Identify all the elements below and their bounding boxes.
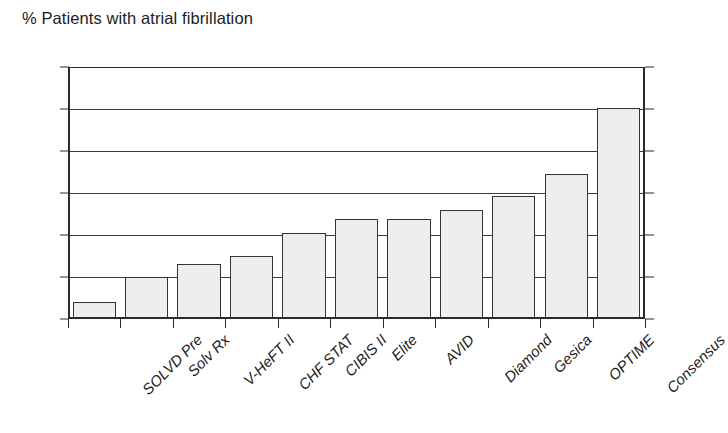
x-tick-mark — [68, 319, 69, 328]
x-tick-label: Solv Rx — [184, 331, 233, 380]
bar-optime — [545, 174, 588, 319]
y-tick-mark — [645, 67, 654, 68]
x-tick-label: Diamond — [501, 331, 555, 385]
x-tick-label: OPTIME — [605, 331, 658, 384]
x-tick-mark — [225, 319, 226, 328]
x-tick-label: CIBIS II — [341, 331, 390, 380]
bar-cibis-ii — [282, 233, 325, 319]
x-tick-label: Gesica — [550, 331, 595, 376]
x-tick-mark — [173, 319, 174, 328]
y-tick-mark — [645, 151, 654, 152]
x-tick-mark — [593, 319, 594, 328]
bar-solv-rx — [125, 277, 168, 319]
bar-v-heft-ii — [177, 264, 220, 319]
bar-elite — [335, 219, 378, 319]
x-tick-mark — [540, 319, 541, 328]
x-tick-label: V-HeFT II — [240, 331, 298, 389]
x-tick-mark — [383, 319, 384, 328]
y-tick-mark — [645, 109, 654, 110]
y-tick-mark — [645, 235, 654, 236]
y-tick-mark — [645, 319, 654, 320]
bar-series — [68, 67, 645, 319]
bar-avid — [387, 219, 430, 319]
x-tick-mark — [330, 319, 331, 328]
x-tick-mark — [488, 319, 489, 328]
bar-chf-stat — [230, 256, 273, 319]
chart-title: % Patients with atrial fibrillation — [22, 9, 253, 28]
x-tick-mark — [645, 319, 646, 328]
y-tick-mark — [645, 193, 654, 194]
bar-solvd-pre — [73, 302, 116, 319]
x-tick-label: Consensus — [663, 331, 728, 396]
bar-gesica — [492, 196, 535, 319]
x-tick-label: AVID — [441, 331, 477, 367]
bar-consensus — [597, 108, 640, 319]
x-tick-label: CHF STAT — [294, 331, 356, 393]
x-tick-mark — [435, 319, 436, 328]
bar-diamond — [440, 210, 483, 319]
x-tick-mark — [278, 319, 279, 328]
plot-area — [68, 67, 645, 319]
x-tick-mark — [120, 319, 121, 328]
x-tick-label: Elite — [387, 331, 420, 364]
y-tick-mark — [645, 277, 654, 278]
x-tick-label: SOLVD Pre — [139, 331, 206, 398]
